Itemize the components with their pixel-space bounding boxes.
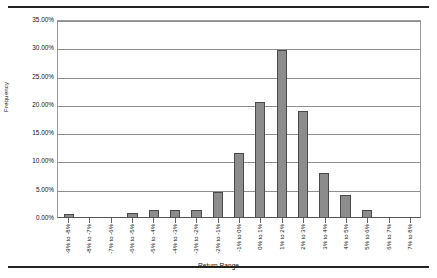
x-axis-tick-label: 3% to 4% bbox=[322, 224, 328, 250]
y-axis-tick-label: 15.00% bbox=[32, 130, 54, 136]
x-axis-tick-label: -7% to -6% bbox=[108, 224, 114, 254]
bar-slot bbox=[314, 21, 335, 217]
bar bbox=[277, 50, 287, 217]
bar bbox=[191, 210, 201, 217]
x-axis-tick-label: 7% to 8% bbox=[407, 224, 413, 250]
x-label-slot: 2% to 3% bbox=[292, 223, 313, 263]
bar-slot bbox=[122, 21, 143, 217]
x-label-slot: 1% to 2% bbox=[271, 223, 292, 263]
x-label-slot: -7% to -6% bbox=[100, 223, 121, 263]
bar-slot bbox=[207, 21, 228, 217]
bar bbox=[362, 210, 372, 217]
x-label-slot: -2% to -1% bbox=[207, 223, 228, 263]
bar bbox=[234, 153, 244, 217]
bar bbox=[340, 195, 350, 217]
x-label-slot: -8% to -7% bbox=[78, 223, 99, 263]
x-label-slot: 5% to 6% bbox=[357, 223, 378, 263]
bar-slot bbox=[101, 21, 122, 217]
x-axis-tick-label: -2% to -1% bbox=[215, 224, 221, 254]
bar-slot bbox=[79, 21, 100, 217]
x-axis-tick-label: 4% to 5% bbox=[343, 224, 349, 250]
x-axis-tick-label: 5% to 6% bbox=[364, 224, 370, 250]
y-axis-tick-label: 30.00% bbox=[32, 45, 54, 51]
x-label-slot: 4% to 5% bbox=[335, 223, 356, 263]
x-label-slot: -5% to -4% bbox=[143, 223, 164, 263]
x-axis-tick-label: -4% to -3% bbox=[172, 224, 178, 254]
bar-slot bbox=[356, 21, 377, 217]
x-axis-tick-label: 2% to 3% bbox=[300, 224, 306, 250]
bar bbox=[255, 102, 265, 217]
x-label-slot: 3% to 4% bbox=[314, 223, 335, 263]
bar-slot bbox=[292, 21, 313, 217]
y-axis-tick-label: 10.00% bbox=[32, 158, 54, 164]
x-label-slot: -6% to -5% bbox=[121, 223, 142, 263]
x-axis-tick-label: -8% to -7% bbox=[86, 224, 92, 254]
bar-slot bbox=[143, 21, 164, 217]
bar-slot bbox=[58, 21, 79, 217]
bar bbox=[170, 210, 180, 217]
bar bbox=[298, 111, 308, 217]
x-axis-tick-label: -5% to -4% bbox=[150, 224, 156, 254]
page-rule-bottom bbox=[8, 266, 429, 268]
page-rule-top bbox=[8, 6, 429, 8]
bar-slot bbox=[164, 21, 185, 217]
y-axis-tick-label: 35.00% bbox=[32, 17, 54, 23]
x-axis-tick-label: -1% to 0% bbox=[236, 224, 242, 252]
x-label-slot: -3% to -2% bbox=[185, 223, 206, 263]
y-axis-tick-label: 5.00% bbox=[36, 187, 54, 193]
bar-slot bbox=[250, 21, 271, 217]
bar bbox=[319, 173, 329, 217]
histogram-figure: Frequency 35.00%30.00%25.00%20.00%15.00%… bbox=[0, 12, 437, 264]
bar bbox=[64, 214, 74, 217]
bar bbox=[213, 192, 223, 217]
x-axis-tick-labels: -9% to -8%-8% to -7%-7% to -6%-6% to -5%… bbox=[57, 223, 421, 263]
x-axis-tick-label: 1% to 2% bbox=[279, 224, 285, 250]
x-axis-tick-label: 0% to 1% bbox=[257, 224, 263, 250]
x-label-slot: -9% to -8% bbox=[57, 223, 78, 263]
bar-series bbox=[58, 21, 420, 217]
x-label-slot: -1% to 0% bbox=[228, 223, 249, 263]
y-axis-tick-label: 0.00% bbox=[36, 215, 54, 221]
bar-slot bbox=[228, 21, 249, 217]
y-axis-tick-label: 20.00% bbox=[32, 102, 54, 108]
bar-slot bbox=[335, 21, 356, 217]
x-label-slot: 6% to 7% bbox=[378, 223, 399, 263]
bar bbox=[149, 210, 159, 217]
x-axis-tick-label: -9% to -8% bbox=[65, 224, 71, 254]
x-axis-tick-label: -6% to -5% bbox=[129, 224, 135, 254]
x-label-slot: 7% to 8% bbox=[400, 223, 421, 263]
x-axis-tick-label: 6% to 7% bbox=[386, 224, 392, 250]
bar-slot bbox=[399, 21, 420, 217]
y-axis-title: Frequency bbox=[2, 82, 9, 112]
bar bbox=[127, 213, 137, 217]
y-axis-tick-label: 25.00% bbox=[32, 73, 54, 79]
bar-slot bbox=[377, 21, 398, 217]
plot-area bbox=[57, 20, 421, 218]
y-axis-tick-labels: 35.00%30.00%25.00%20.00%15.00%10.00%5.00… bbox=[14, 20, 56, 218]
x-label-slot: -4% to -3% bbox=[164, 223, 185, 263]
x-label-slot: 0% to 1% bbox=[250, 223, 271, 263]
bar-slot bbox=[186, 21, 207, 217]
bar-slot bbox=[271, 21, 292, 217]
x-axis-tick-label: -3% to -2% bbox=[193, 224, 199, 254]
